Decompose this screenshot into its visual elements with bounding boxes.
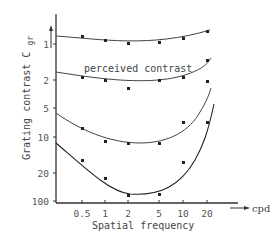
y-axis-label: Grating contrast C gr — [21, 36, 35, 160]
data-points — [81, 30, 209, 197]
x-tick-label: 2 — [125, 208, 131, 219]
x-axis-label: Spatial frequency — [92, 220, 194, 231]
curve-1 — [56, 30, 210, 41]
y-arrow-head-icon — [49, 25, 53, 31]
y-tick-label: 20 — [38, 168, 50, 179]
x-tick-label: 20 — [201, 208, 213, 219]
y-tick-label: 5 — [43, 103, 49, 114]
y-tick-label: 2 — [43, 75, 49, 86]
x-tick-label: 1 — [102, 208, 108, 219]
x-arrow-head-icon — [244, 206, 250, 210]
curve-4 — [56, 104, 214, 194]
chart-svg: 1251020100 0.51251020 perceived contrast… — [0, 0, 275, 241]
x-tick-label: 5 — [156, 208, 162, 219]
x-tick-label: 0.5 — [73, 208, 90, 219]
y-tick-label: 100 — [32, 196, 49, 207]
x-tick-label: 10 — [177, 208, 189, 219]
chart: 1251020100 0.51251020 perceived contrast… — [0, 0, 275, 241]
curve-3 — [56, 88, 211, 143]
y-tick-label: 10 — [38, 132, 50, 143]
x-unit-label: cpd — [252, 203, 271, 214]
y-tick-label: 1 — [43, 39, 49, 50]
annotation-perceived-contrast: perceived contrast — [84, 63, 192, 74]
y-ticks: 1251020100 — [32, 39, 56, 207]
